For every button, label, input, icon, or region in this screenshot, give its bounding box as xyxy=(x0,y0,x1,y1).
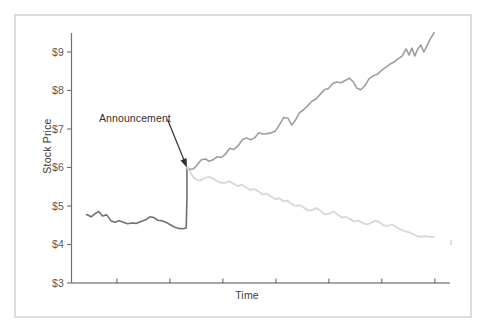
y-axis-label: Stock Price xyxy=(41,91,53,201)
annotation-arrow-head xyxy=(180,158,186,168)
announcement-annotation-label: Announcement xyxy=(99,112,171,124)
chart-figure: Stock Price Time Announcement $9 $8 $7 $… xyxy=(0,0,486,332)
series-line-lower-path xyxy=(187,168,434,237)
annotation-arrow-shaft xyxy=(168,120,186,164)
x-axis-label: Time xyxy=(197,289,297,301)
y-tick-label-4: $5 xyxy=(36,200,64,212)
y-tick-label-2: $7 xyxy=(36,123,64,135)
series-line-upper-path xyxy=(187,33,434,170)
chart-plot-area xyxy=(0,0,486,332)
y-tick-label-6: $3 xyxy=(36,277,64,289)
y-tick-label-0: $9 xyxy=(36,46,64,58)
y-tick-label-5: $4 xyxy=(36,238,64,250)
y-tick-label-1: $8 xyxy=(36,84,64,96)
announcement-arrow xyxy=(168,120,187,168)
y-tick-label-3: $6 xyxy=(36,161,64,173)
series-line-pre-announcement xyxy=(87,168,187,229)
